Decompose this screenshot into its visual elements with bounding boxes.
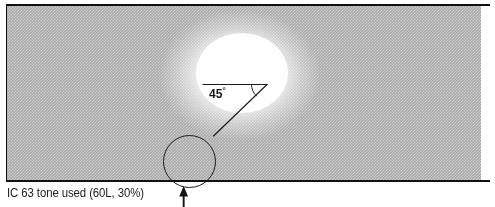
figure-root: 45° IC 63 tone used (60L, 30%)	[0, 0, 495, 207]
tone-panel	[6, 5, 481, 181]
panel-bottom-rule	[6, 180, 490, 182]
panel-top-rule	[6, 4, 490, 6]
starburst-highlight	[6, 5, 481, 181]
angle-label: 45°	[209, 86, 226, 101]
arrow-up-icon	[179, 186, 188, 207]
angle-value: 45	[209, 87, 223, 101]
panel-left-rule	[6, 4, 7, 181]
pointer-arrow	[176, 186, 192, 207]
starburst-rays	[6, 5, 481, 181]
figure-caption: IC 63 tone used (60L, 30%)	[7, 186, 144, 200]
degree-symbol: °	[223, 86, 226, 95]
